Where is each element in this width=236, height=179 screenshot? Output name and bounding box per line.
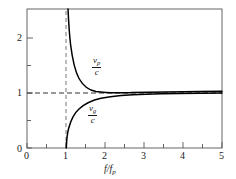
y-tick-label-1: 1 (17, 88, 22, 98)
x-axis-title: f/fp (104, 163, 116, 176)
x-tick-label-2: 2 (102, 151, 107, 161)
x-tick-label-5: 5 (219, 151, 224, 161)
y-tick-label-0: 0 (17, 144, 22, 154)
phase-velocity-label: vp c (92, 56, 101, 77)
velocity-dispersion-chart: 0 1 2 0 1 2 3 4 5 f/fp vp c vg c (0, 0, 236, 179)
x-tick-label-3: 3 (141, 151, 146, 161)
x-tick-label-1: 1 (63, 151, 68, 161)
y-tick-label-2: 2 (17, 33, 22, 43)
x-tick-label-0: 0 (24, 151, 29, 161)
x-tick-label-4: 4 (180, 151, 185, 161)
x-axis-title-sub: p (112, 168, 116, 176)
x-axis-ticks (27, 142, 222, 148)
group-velocity-label: vg c (88, 104, 97, 125)
plot-frame (27, 9, 222, 148)
phase-velocity-curve (68, 9, 222, 93)
plot-canvas (0, 0, 236, 179)
phase-velocity-label-denominator: c (92, 68, 101, 77)
group-velocity-label-denominator: c (88, 116, 97, 125)
